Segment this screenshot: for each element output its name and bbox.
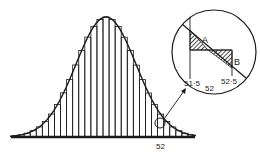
- histogram-bar: [133, 65, 139, 137]
- arrow-head-icon: [181, 88, 186, 94]
- histogram-bar: [127, 51, 133, 137]
- histogram-bar: [145, 93, 151, 137]
- inset-curve-line: [182, 24, 246, 78]
- histogram-bar: [97, 19, 103, 137]
- label-area-a: A: [202, 35, 208, 45]
- callout-arrow: [164, 91, 184, 119]
- magnified-inset: A B 51·5 52 52·5: [172, 10, 256, 94]
- histogram-bar: [67, 79, 73, 137]
- histogram-bar: [109, 19, 115, 137]
- histogram-bar: [115, 26, 121, 137]
- label-inset-right: 52·5: [221, 77, 238, 86]
- histogram-bar: [79, 50, 85, 137]
- histogram-bar: [139, 80, 145, 137]
- histogram-normal-approximation-diagram: A B 51·5 52 52·5 52: [0, 0, 260, 157]
- area-b-hatched: [208, 50, 232, 68]
- label-inset-center: 52: [205, 84, 214, 93]
- histogram-bar: [121, 37, 127, 137]
- histogram-bar: [85, 37, 91, 137]
- histogram-bar: [91, 26, 97, 137]
- histogram-bar: [61, 93, 67, 137]
- histogram-bar: [73, 65, 79, 137]
- label-area-b: B: [234, 57, 240, 67]
- axis-label-52: 52: [156, 142, 165, 151]
- histogram-bars: [12, 17, 194, 137]
- histogram-bar: [103, 17, 109, 137]
- label-inset-left: 51·5: [184, 79, 201, 88]
